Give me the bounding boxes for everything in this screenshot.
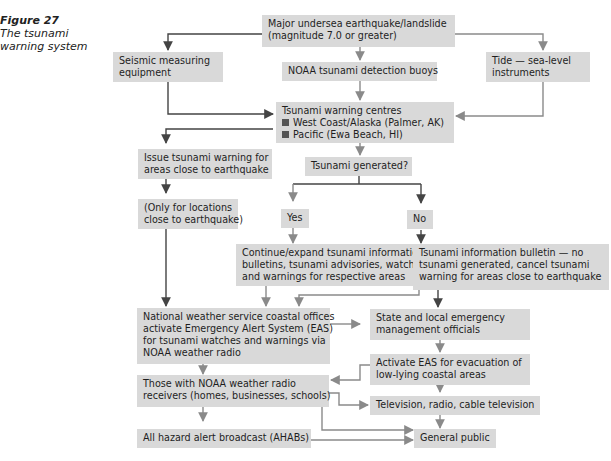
node-text: bulletins, tsunami advisories, watches: [242, 259, 425, 270]
node-text: State and local emergency: [376, 312, 505, 323]
node-tide: Tide — sea-level instruments: [486, 52, 590, 82]
node-text: for tsunami watches and warnings via: [143, 335, 326, 346]
node-earthquake: Major undersea earthquake/landslide (mag…: [262, 15, 455, 47]
node-issue-warning: Issue tsunami warning for areas close to…: [138, 149, 272, 179]
node-text: Major undersea earthquake/landslide: [268, 18, 447, 29]
node-text: Television, radio, cable television: [376, 399, 534, 410]
node-general-public: General public: [414, 429, 496, 448]
node-text: West Coast/Alaska (Palmer, AK): [293, 117, 444, 128]
node-text: tsunami generated, cancel tsunami: [419, 259, 589, 270]
node-text: Tide — sea-level: [492, 55, 571, 66]
node-nws-offices: National weather service coastal offices…: [137, 308, 330, 364]
node-no: No: [407, 210, 433, 229]
node-radio-receivers: Those with NOAA weather radio receivers …: [137, 375, 329, 407]
node-text: instruments: [492, 67, 550, 78]
node-text: areas close to earthquake: [144, 164, 269, 175]
node-text: Tsunami information bulletin — no: [419, 247, 583, 258]
node-text: No: [413, 213, 426, 224]
node-text: Seismic measuring: [119, 55, 210, 66]
node-text: (magnitude 7.0 or greater): [268, 30, 397, 41]
node-text: activate Emergency Alert System (EAS): [143, 323, 333, 334]
node-text: NOAA tsunami detection buoys: [288, 65, 438, 76]
node-text: General public: [420, 432, 490, 443]
node-text: Tsunami warning centres: [282, 105, 402, 116]
node-text: and warnings for respective areas: [242, 271, 405, 282]
node-text: Continue/expand tsunami information: [242, 247, 424, 258]
node-text: Tsunami generated?: [311, 160, 408, 171]
node-only-locations: (Only for locations close to earthquake): [138, 199, 238, 229]
node-state-officials: State and local emergency management off…: [370, 309, 530, 340]
node-buoys: NOAA tsunami detection buoys: [282, 62, 437, 81]
node-text: NOAA weather radio: [143, 347, 241, 358]
node-continue-expand: Continue/expand tsunami information bull…: [236, 244, 423, 286]
node-text: (Only for locations: [144, 202, 232, 213]
node-text: equipment: [119, 67, 171, 78]
node-text: receivers (homes, businesses, schools): [143, 390, 330, 401]
node-text: close to earthquake): [144, 214, 243, 225]
node-activate-eas: Activate EAS for evacuation of low-lying…: [370, 354, 530, 385]
node-warning-centres: Tsunami warning centres West Coast/Alask…: [276, 102, 454, 143]
node-ahab: All hazard alert broadcast (AHABs): [137, 429, 311, 448]
node-seismic: Seismic measuring equipment: [113, 52, 223, 82]
node-text: Pacific (Ewa Beach, HI): [293, 129, 403, 140]
node-yes: Yes: [281, 209, 309, 228]
node-text: Yes: [287, 212, 303, 223]
bullet-square-icon: [282, 119, 289, 126]
node-text: Issue tsunami warning for: [144, 152, 268, 163]
node-television: Television, radio, cable television: [370, 396, 540, 415]
node-text: warning for areas close to earthquake: [419, 271, 601, 282]
node-text: All hazard alert broadcast (AHABs): [143, 432, 309, 443]
node-text: Those with NOAA weather radio: [143, 378, 296, 389]
node-text: Activate EAS for evacuation of: [376, 357, 522, 368]
node-info-bulletin: Tsunami information bulletin — no tsunam…: [413, 244, 609, 290]
node-text: low-lying coastal areas: [376, 369, 486, 380]
node-tsunami-generated: Tsunami generated?: [305, 157, 412, 176]
bullet-square-icon: [282, 131, 289, 138]
node-text: National weather service coastal offices: [143, 311, 335, 322]
node-text: management officials: [376, 324, 480, 335]
